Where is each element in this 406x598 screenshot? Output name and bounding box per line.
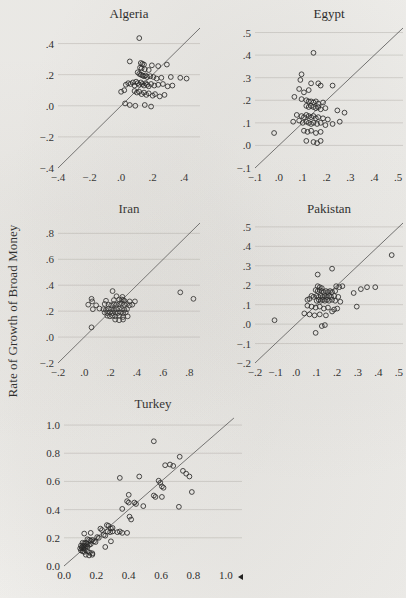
data-point xyxy=(318,129,323,134)
data-point xyxy=(168,75,173,80)
reference-line-45deg xyxy=(58,223,200,363)
y-tick-label: −.4 xyxy=(22,163,54,174)
y-tick-label: −.2 xyxy=(22,131,54,142)
y-tick-label: 0.6 xyxy=(22,476,60,487)
data-point xyxy=(389,253,394,258)
data-point xyxy=(127,59,132,64)
data-point xyxy=(181,468,186,473)
data-point xyxy=(127,103,132,108)
data-point xyxy=(156,64,161,69)
panel-iran: Iran−.2.0.2.4.6.8−.2.0.2.4.6.8 xyxy=(22,201,202,387)
data-point xyxy=(142,103,147,108)
y-tick-label: .2 xyxy=(225,280,251,291)
x-tick-label: .3 xyxy=(354,367,362,378)
data-point xyxy=(149,104,154,109)
data-point xyxy=(325,117,330,122)
x-tick-label: .2 xyxy=(149,172,157,183)
x-tick-label: −.4 xyxy=(51,172,65,183)
y-tick-label: .4 xyxy=(22,38,54,49)
data-point xyxy=(299,97,304,102)
x-tick-label: .4 xyxy=(133,367,141,378)
data-point xyxy=(137,474,142,479)
data-point xyxy=(176,504,181,509)
data-point xyxy=(125,530,130,535)
data-point xyxy=(178,290,183,295)
data-point xyxy=(330,266,335,271)
plot-canvas-algeria xyxy=(58,28,200,168)
data-point xyxy=(160,495,165,500)
data-point xyxy=(163,463,168,468)
y-tick-label: .4 xyxy=(225,241,251,252)
y-tick-label: .1 xyxy=(225,299,251,310)
data-point xyxy=(89,325,94,330)
data-point xyxy=(88,530,93,535)
x-tick-label: .5 xyxy=(394,172,402,183)
y-tick-label: −.2 xyxy=(22,358,54,369)
data-point xyxy=(159,75,164,80)
panel-title-egypt: Egypt xyxy=(255,6,403,21)
plot-canvas-pakistan xyxy=(255,223,403,363)
data-point xyxy=(302,90,307,95)
data-point xyxy=(191,296,196,301)
data-point xyxy=(272,318,277,323)
data-point xyxy=(309,81,314,86)
y-tick-label: 0.0 xyxy=(22,561,60,572)
data-points xyxy=(78,439,194,558)
x-tick-label: .2 xyxy=(333,367,341,378)
y-tick-label: .5 xyxy=(225,27,251,38)
data-point xyxy=(149,63,154,68)
gridlines xyxy=(64,425,242,538)
data-point xyxy=(184,76,189,81)
data-point xyxy=(162,92,167,97)
y-tick-label: .2 xyxy=(22,69,54,80)
x-tick-label: .3 xyxy=(346,172,354,183)
data-point xyxy=(323,123,328,128)
data-point xyxy=(161,82,166,87)
data-point xyxy=(322,323,327,328)
x-tick-label: .0 xyxy=(275,172,283,183)
data-point xyxy=(125,314,130,319)
data-point xyxy=(330,297,335,302)
x-tick-label: .2 xyxy=(322,172,330,183)
y-tick-label: 0.8 xyxy=(22,448,60,459)
data-point xyxy=(311,50,316,55)
x-tick-label: 0.6 xyxy=(154,570,168,581)
left-triangle-cursor-icon[interactable] xyxy=(238,574,243,580)
y-tick-label: 1.0 xyxy=(22,420,60,431)
y-tick-label: .4 xyxy=(225,50,251,61)
data-point xyxy=(324,313,329,318)
data-point xyxy=(330,122,335,127)
y-tick-label: .3 xyxy=(225,260,251,271)
figure-y-axis-label-text: Rate of Growth of Broad Money xyxy=(5,225,21,398)
data-point xyxy=(178,75,183,80)
x-tick-label: 0.8 xyxy=(187,570,201,581)
data-point xyxy=(103,545,108,550)
plot-area-turkey xyxy=(64,418,242,566)
data-point xyxy=(177,454,182,459)
x-tick-label: .1 xyxy=(299,172,307,183)
y-tick-label: .4 xyxy=(22,280,54,291)
panel-title-iran: Iran xyxy=(58,201,200,216)
panel-title-turkey: Turkey xyxy=(64,396,242,411)
data-point xyxy=(110,289,115,294)
x-tick-label: .1 xyxy=(313,367,321,378)
data-point xyxy=(82,531,87,536)
y-tick-label: .2 xyxy=(225,95,251,106)
y-tick-label: .0 xyxy=(225,319,251,330)
y-tick-label: .3 xyxy=(225,72,251,83)
data-point xyxy=(86,302,91,307)
data-point xyxy=(317,312,322,317)
panel-pakistan: Pakistan−.2−.1.0.1.2.3.4.5−.2−.1.0.1.2.3… xyxy=(225,201,405,387)
data-point xyxy=(133,299,138,304)
reference-line-45deg xyxy=(255,28,403,168)
x-tick-label: 0.2 xyxy=(89,570,103,581)
x-tick-label: .0 xyxy=(117,172,125,183)
data-point xyxy=(307,312,312,317)
data-point xyxy=(318,139,323,144)
y-tick-label: .5 xyxy=(225,221,251,232)
y-tick-label: 0.2 xyxy=(22,532,60,543)
plot-area-egypt xyxy=(255,28,403,168)
x-tick-label: 0.4 xyxy=(122,570,136,581)
y-tick-label: .2 xyxy=(22,306,54,317)
data-point xyxy=(151,439,156,444)
